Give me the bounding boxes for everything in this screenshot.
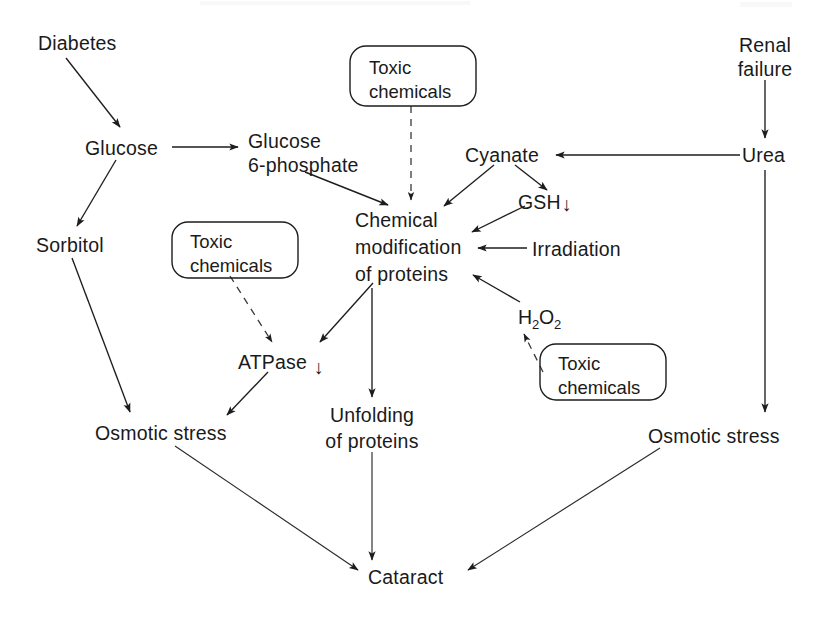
edge-cyanate-to-chemmod	[444, 165, 494, 206]
node-cataract: Cataract	[368, 566, 444, 588]
node-h2o2-h: H	[518, 306, 532, 328]
edge-chemmod-to-atpase	[320, 283, 373, 342]
node-h2o2-o: O	[539, 306, 554, 328]
node-renal-failure-line1: Renal	[739, 34, 791, 56]
node-gsh-down-arrow-icon: ↓	[562, 193, 572, 215]
toxic-chemicals-right-line2: chemicals	[558, 377, 640, 398]
scan-artifact-top-center	[200, 1, 470, 5]
node-sorbitol: Sorbitol	[36, 234, 104, 256]
node-osmotic-stress-right: Osmotic stress	[648, 425, 780, 447]
edge-osmotic-right-to-cataract	[468, 448, 660, 570]
node-unfolding-line1: Unfolding	[330, 404, 414, 426]
node-gsh: GSH	[518, 191, 561, 213]
node-unfolding-line2: of proteins	[325, 430, 418, 452]
node-osmotic-stress-left: Osmotic stress	[95, 422, 227, 444]
edge-glucose6p-to-chemmod	[305, 172, 388, 205]
node-chemical-modification-line3: of proteins	[355, 263, 448, 285]
node-urea: Urea	[742, 144, 785, 166]
node-irradiation: Irradiation	[532, 238, 621, 260]
toxic-chemicals-left-line2: chemicals	[190, 255, 272, 276]
node-glucose: Glucose	[85, 137, 158, 159]
toxic-chemicals-right-line1: Toxic	[558, 353, 600, 374]
node-chemical-modification-line2: modification	[355, 236, 461, 258]
edge-cyanate-to-gsh	[515, 165, 547, 190]
edge-glucose-to-sorbitol	[77, 160, 116, 226]
diagram-page: Diabetes Glucose Glucose 6-phosphate Sor…	[0, 0, 822, 617]
toxic-chemicals-top-line1: Toxic	[369, 57, 411, 78]
toxic-chemicals-left-line1: Toxic	[190, 231, 232, 252]
node-h2o2: H 2 O 2	[518, 306, 561, 332]
scan-artifact-top-right	[740, 2, 792, 7]
node-atpase: ATPase	[238, 351, 307, 373]
pathway-diagram: Diabetes Glucose Glucose 6-phosphate Sor…	[0, 0, 822, 617]
node-diabetes: Diabetes	[38, 32, 117, 54]
edge-atpase-to-osmotic-left	[227, 372, 268, 415]
node-chemical-modification-line1: Chemical	[355, 209, 438, 231]
edge-diabetes-to-glucose	[66, 58, 120, 127]
edge-h2o2-to-chemmod	[473, 275, 520, 302]
edge-toxic-left-to-atpase	[230, 276, 272, 342]
toxic-chemicals-top-line2: chemicals	[369, 81, 451, 102]
edge-sorbitol-to-osmotic-left	[72, 258, 130, 412]
node-renal-failure-line2: failure	[738, 58, 793, 80]
node-glucose6phosphate-line1: Glucose	[248, 130, 321, 152]
edge-osmotic-left-to-cataract	[175, 446, 358, 570]
node-atpase-down-arrow-icon: ↓	[314, 356, 324, 378]
node-glucose6phosphate-line2: 6-phosphate	[248, 154, 359, 176]
node-h2o2-sub2: 2	[554, 317, 561, 332]
node-cyanate: Cyanate	[465, 144, 539, 166]
